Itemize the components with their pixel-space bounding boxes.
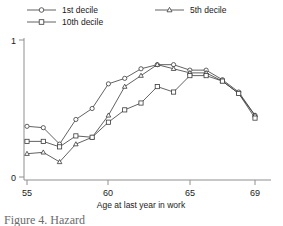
data-point-triangle-icon <box>106 113 111 117</box>
chart-axes: 1 0 55 60 65 69 Age at last year in work <box>11 36 271 210</box>
x-tick-label-60: 60 <box>103 188 113 198</box>
data-point-square-icon <box>57 145 61 149</box>
data-point-square-icon <box>253 116 257 120</box>
data-point-triangle-icon <box>139 73 144 77</box>
decile-hazard-chart: 1st decile 10th decile 5th decile 1 0 <box>0 0 283 226</box>
figure-caption: Figure 4. Hazard <box>4 214 85 226</box>
data-point-square-icon <box>220 79 224 83</box>
series-path <box>27 76 255 147</box>
data-point-circle-icon <box>106 82 110 86</box>
chart-legend: 1st decile 10th decile 5th decile <box>27 5 227 27</box>
legend-label-5th-decile: 5th decile <box>190 5 227 15</box>
data-point-triangle-icon <box>122 84 127 88</box>
legend-marker-square-icon <box>39 20 44 25</box>
x-axis-title: Age at last year in work <box>97 200 186 210</box>
legend-marker-circle-icon <box>39 8 44 13</box>
chart-plot-area <box>25 62 258 163</box>
x-tick-label-55: 55 <box>22 188 32 198</box>
data-point-square-icon <box>237 91 241 95</box>
data-point-circle-icon <box>41 126 45 130</box>
y-tick-label-1: 1 <box>11 36 16 46</box>
data-point-square-icon <box>41 139 45 143</box>
data-point-square-icon <box>188 74 192 78</box>
data-point-square-icon <box>155 84 159 88</box>
data-point-square-icon <box>90 135 94 139</box>
data-point-square-icon <box>25 139 29 143</box>
x-tick-label-69: 69 <box>250 188 260 198</box>
y-tick-label-0: 0 <box>11 173 16 183</box>
data-point-square-icon <box>74 134 78 138</box>
data-point-circle-icon <box>25 124 29 128</box>
data-point-square-icon <box>204 74 208 78</box>
legend-label-10th-decile: 10th decile <box>62 17 103 27</box>
data-point-square-icon <box>123 108 127 112</box>
data-point-circle-icon <box>139 67 143 71</box>
legend-item-10th-decile: 10th decile <box>27 17 103 27</box>
figure-caption-strip: Figure 4. Hazard <box>0 214 283 226</box>
data-point-circle-icon <box>123 76 127 80</box>
data-point-square-icon <box>106 120 110 124</box>
data-point-circle-icon <box>90 106 94 110</box>
figure-container: 1st decile 10th decile 5th decile 1 0 <box>0 0 283 226</box>
series-10th-decile <box>25 74 257 149</box>
data-point-triangle-icon <box>41 150 46 154</box>
legend-item-1st-decile: 1st decile <box>27 5 98 15</box>
data-point-square-icon <box>171 90 175 94</box>
data-point-circle-icon <box>74 117 78 121</box>
legend-label-1st-decile: 1st decile <box>62 5 98 15</box>
legend-item-5th-decile: 5th decile <box>155 5 227 15</box>
x-tick-label-65: 65 <box>185 188 195 198</box>
data-point-square-icon <box>139 101 143 105</box>
